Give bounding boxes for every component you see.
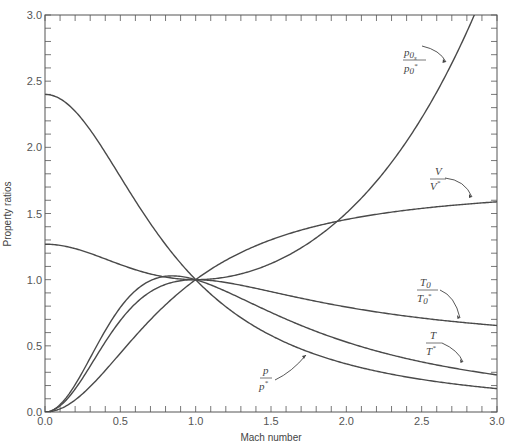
svg-text:V*: V* (430, 179, 441, 192)
label-t-ratio: T T* (426, 329, 463, 363)
annotations: p0s p0* V V* T0 T0* T T* (258, 46, 472, 392)
y-tick-label: 2.0 (27, 141, 42, 153)
y-tick-label: 2.5 (27, 75, 42, 87)
x-tick-label: 3.0 (489, 415, 504, 427)
x-tick-label: 2.5 (414, 415, 429, 427)
x-tick-label: 0.5 (113, 415, 128, 427)
svg-text:V: V (435, 165, 443, 177)
y-tick-label: 0.0 (27, 406, 42, 418)
y-axis-title: Property ratios (2, 181, 13, 246)
svg-text:T*: T* (426, 344, 436, 357)
svg-text:T0*: T0* (417, 292, 432, 306)
svg-text:p: p (262, 364, 269, 376)
svg-text:p0*: p0* (403, 62, 418, 76)
label-p0-ratio: p0s p0* (403, 46, 446, 76)
curve-p0-ratio (45, 0, 497, 280)
y-tick-label: 0.5 (27, 340, 42, 352)
svg-text:p*: p* (258, 379, 269, 392)
svg-text:T0: T0 (420, 276, 431, 290)
y-tick-label: 1.0 (27, 274, 42, 286)
label-t0-ratio: T0 T0* (417, 276, 460, 319)
x-axis-title: Mach number (240, 432, 302, 443)
y-tick-label: 3.0 (27, 9, 42, 21)
y-tick-label: 1.5 (27, 208, 42, 220)
x-tick-label: 1.0 (188, 415, 203, 427)
x-tick-label: 2.0 (339, 415, 354, 427)
label-p-ratio: p p* (258, 355, 306, 392)
label-v-ratio: V V* (430, 165, 472, 198)
svg-text:T: T (430, 329, 437, 341)
x-tick-label: 1.5 (263, 415, 278, 427)
chart: 0.00.51.01.52.02.53.00.00.51.01.52.02.53… (0, 0, 513, 446)
